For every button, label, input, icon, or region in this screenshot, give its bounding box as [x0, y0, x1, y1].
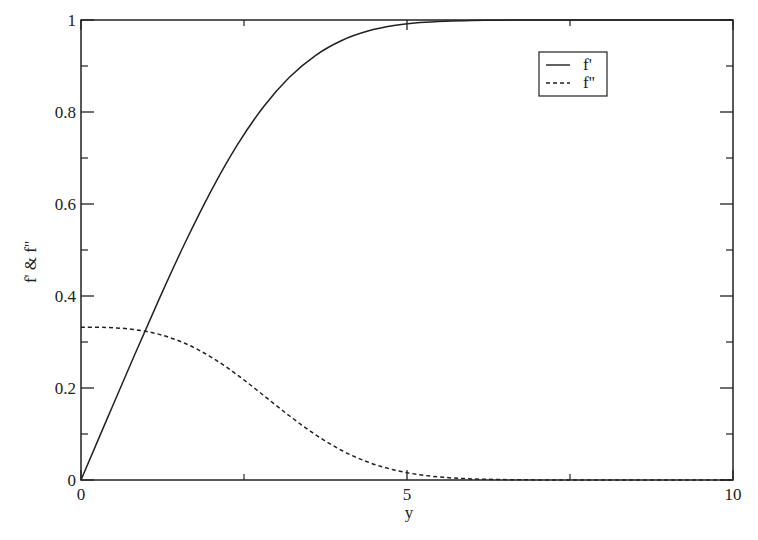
- legend: f' f'': [539, 52, 607, 96]
- x-axis-label: y: [405, 503, 414, 522]
- chart: 051000.20.40.60.81 y f' & f'' f' f'': [0, 0, 758, 540]
- y-axis-label: f' & f'': [21, 241, 40, 283]
- axis-ticks: [81, 20, 733, 480]
- legend-box: [539, 52, 607, 96]
- x-tick-label: 5: [403, 485, 412, 504]
- y-tick-label: 0.2: [55, 379, 76, 398]
- y-tick-label: 0.4: [55, 287, 77, 306]
- y-tick-label: 0: [68, 471, 77, 490]
- axis-tick-labels: 051000.20.40.60.81: [55, 11, 742, 504]
- legend-label-fdoubleprime: f'': [583, 73, 595, 92]
- x-tick-label: 10: [725, 485, 742, 504]
- plot-frame: [81, 20, 733, 480]
- y-tick-label: 0.6: [55, 195, 76, 214]
- series-fprime-line: [81, 20, 733, 480]
- x-tick-label: 0: [77, 485, 86, 504]
- plot-series: [81, 20, 733, 480]
- y-tick-label: 0.8: [55, 103, 76, 122]
- legend-label-fprime: f': [583, 55, 592, 74]
- series-fdoubleprime-line: [81, 327, 733, 480]
- y-tick-label: 1: [68, 11, 77, 30]
